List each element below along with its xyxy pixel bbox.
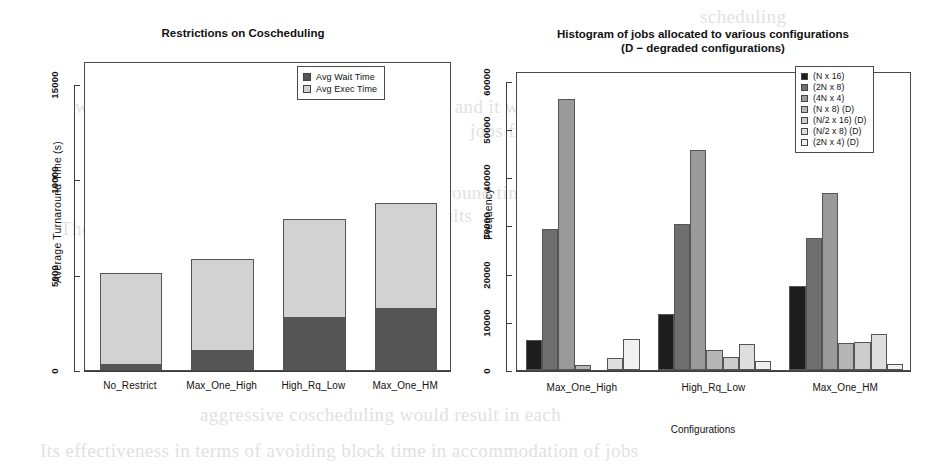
chart-restrictions-on-coscheduling: Restrictions on Coscheduling Average Tur…	[18, 8, 468, 470]
right-chart-ytick	[506, 82, 512, 83]
left-chart-ytick-label: 0	[49, 368, 60, 373]
stacked-bar	[375, 203, 437, 370]
right-chart-xtick-label: High_Rq_Low	[648, 382, 780, 393]
right-chart-x-axis-title: Configurations	[478, 424, 928, 435]
legend-item[interactable]: (4N x 4)	[801, 93, 866, 104]
grouped-bar	[623, 339, 639, 370]
right-chart-ytick-label: 0	[481, 368, 492, 373]
grouped-bar	[887, 364, 903, 370]
legend-swatch-icon	[801, 139, 808, 146]
right-chart-ytick-label: 10000	[481, 309, 492, 336]
right-chart-legend[interactable]: (N x 16)(2N x 8)(4N x 4)(N x 8) (D)(N/2 …	[795, 66, 874, 153]
legend-item[interactable]: (N x 8) (D)	[801, 104, 866, 115]
bar-segment-avg-wait-time	[100, 365, 162, 370]
legend-item[interactable]: Avg Wait Time	[303, 71, 377, 83]
right-chart-ytick-label: 60000	[481, 68, 492, 95]
bar-segment-avg-exec-time	[375, 203, 437, 309]
right-chart-ytick	[506, 323, 512, 324]
grouped-bar	[789, 286, 805, 370]
legend-item[interactable]: (N/2 x 16) (D)	[801, 115, 866, 126]
left-chart-legend[interactable]: Avg Wait TimeAvg Exec Time	[297, 66, 385, 100]
right-chart-ytick-label: 20000	[481, 261, 492, 288]
bar-segment-avg-exec-time	[100, 273, 162, 366]
grouped-bar	[607, 358, 623, 370]
left-chart-ytick	[74, 276, 80, 277]
bar-segment-avg-exec-time	[191, 259, 253, 351]
legend-swatch-icon	[303, 73, 311, 81]
right-chart-ytick-label: 30000	[481, 213, 492, 240]
right-chart-ytick-label: 50000	[481, 116, 492, 143]
bar-segment-avg-exec-time	[283, 219, 345, 317]
grouped-bar	[575, 365, 591, 370]
grouped-bar	[871, 334, 887, 370]
legend-item[interactable]: (2N x 4) (D)	[801, 137, 866, 148]
right-chart-x-axis-line	[516, 371, 911, 372]
legend-swatch-icon	[801, 73, 808, 80]
right-chart-ytick	[506, 130, 512, 131]
left-chart-ytick	[74, 85, 80, 86]
grouped-bar	[690, 150, 706, 370]
left-chart-xtick-label: Max_One_HM	[359, 380, 451, 391]
bar-segment-avg-wait-time	[375, 309, 437, 370]
grouped-bar	[526, 340, 542, 370]
right-chart-ytick	[506, 178, 512, 179]
stacked-bar	[283, 219, 345, 370]
right-chart-ytick-label: 40000	[481, 164, 492, 191]
legend-item-label: (N/2 x 8) (D)	[813, 126, 862, 137]
right-chart-title-line2: (D − degraded configurations)	[621, 42, 785, 54]
stacked-bar	[191, 259, 253, 370]
left-chart-x-axis-line	[84, 371, 451, 372]
grouped-bar	[706, 350, 722, 370]
chart-histogram-jobs-configurations: Histogram of jobs allocated to various c…	[478, 8, 928, 470]
legend-item-label: Avg Exec Time	[316, 83, 377, 95]
bar-segment-avg-wait-time	[283, 318, 345, 370]
left-chart-y-axis-line	[74, 85, 75, 371]
grouped-bar	[806, 238, 822, 370]
legend-item[interactable]: (N/2 x 8) (D)	[801, 126, 866, 137]
grouped-bar	[854, 342, 870, 370]
grouped-bar	[822, 193, 838, 370]
legend-item[interactable]: Avg Exec Time	[303, 83, 377, 95]
right-chart-ytick	[506, 226, 512, 227]
legend-swatch-icon	[801, 84, 808, 91]
legend-item-label: Avg Wait Time	[316, 71, 375, 83]
legend-swatch-icon	[303, 85, 311, 93]
right-chart-title-line1: Histogram of jobs allocated to various c…	[557, 28, 849, 40]
left-chart-ytick-label: 5000	[49, 265, 60, 287]
left-chart-xtick-label: Max_One_High	[176, 380, 268, 391]
left-chart-title: Restrictions on Coscheduling	[18, 27, 468, 41]
grouped-bar	[723, 357, 739, 370]
left-chart-ytick-label: 10000	[49, 167, 60, 194]
grouped-bar	[739, 344, 755, 370]
legend-item[interactable]: (N x 16)	[801, 71, 866, 82]
legend-item-label: (N x 16)	[813, 71, 844, 82]
legend-item-label: (2N x 8)	[813, 82, 844, 93]
stacked-bar	[100, 273, 162, 370]
grouped-bar	[838, 343, 854, 370]
legend-swatch-icon	[801, 95, 808, 102]
left-chart-xtick-label: No_Restrict	[84, 380, 176, 391]
grouped-bar	[755, 361, 771, 370]
right-chart-title: Histogram of jobs allocated to various c…	[478, 28, 928, 55]
grouped-bar	[542, 229, 558, 370]
right-chart-ytick	[506, 371, 512, 372]
legend-item-label: (4N x 4)	[813, 93, 844, 104]
grouped-bar	[674, 224, 690, 370]
legend-swatch-icon	[801, 106, 808, 113]
legend-item-label: (2N x 4) (D)	[813, 137, 859, 148]
left-chart-ytick-label: 15000	[49, 71, 60, 98]
legend-item[interactable]: (2N x 8)	[801, 82, 866, 93]
legend-swatch-icon	[801, 117, 808, 124]
grouped-bar	[658, 314, 674, 370]
bar-segment-avg-wait-time	[191, 351, 253, 370]
right-chart-xtick-label: Max_One_HM	[779, 382, 911, 393]
legend-item-label: (N x 8) (D)	[813, 104, 854, 115]
right-chart-ytick	[506, 275, 512, 276]
left-chart-ytick	[74, 180, 80, 181]
legend-item-label: (N/2 x 16) (D)	[813, 115, 866, 126]
left-chart-ytick	[74, 371, 80, 372]
left-chart-xtick-label: High_Rq_Low	[268, 380, 360, 391]
grouped-bar	[558, 99, 574, 370]
legend-swatch-icon	[801, 128, 808, 135]
right-chart-xtick-label: Max_One_High	[516, 382, 648, 393]
